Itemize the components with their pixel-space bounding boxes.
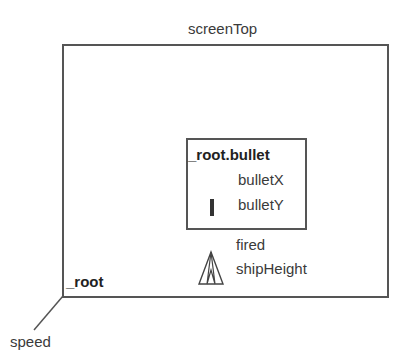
bullet-y-label: bulletY bbox=[238, 196, 284, 213]
speed-line bbox=[30, 294, 66, 334]
bullet-clip: _root.bullet bulletX bulletY bbox=[186, 138, 307, 230]
bullet-x-label: bulletX bbox=[238, 171, 284, 188]
root-label: _root bbox=[66, 273, 104, 290]
ship-height-label: shipHeight bbox=[236, 260, 307, 277]
bullet-title: _root.bullet bbox=[188, 146, 270, 163]
bullet-icon bbox=[210, 199, 214, 216]
screen-top-label: screenTop bbox=[188, 20, 257, 37]
speed-label: speed bbox=[10, 333, 51, 350]
fired-label: fired bbox=[236, 236, 265, 253]
ship-icon bbox=[196, 250, 226, 290]
